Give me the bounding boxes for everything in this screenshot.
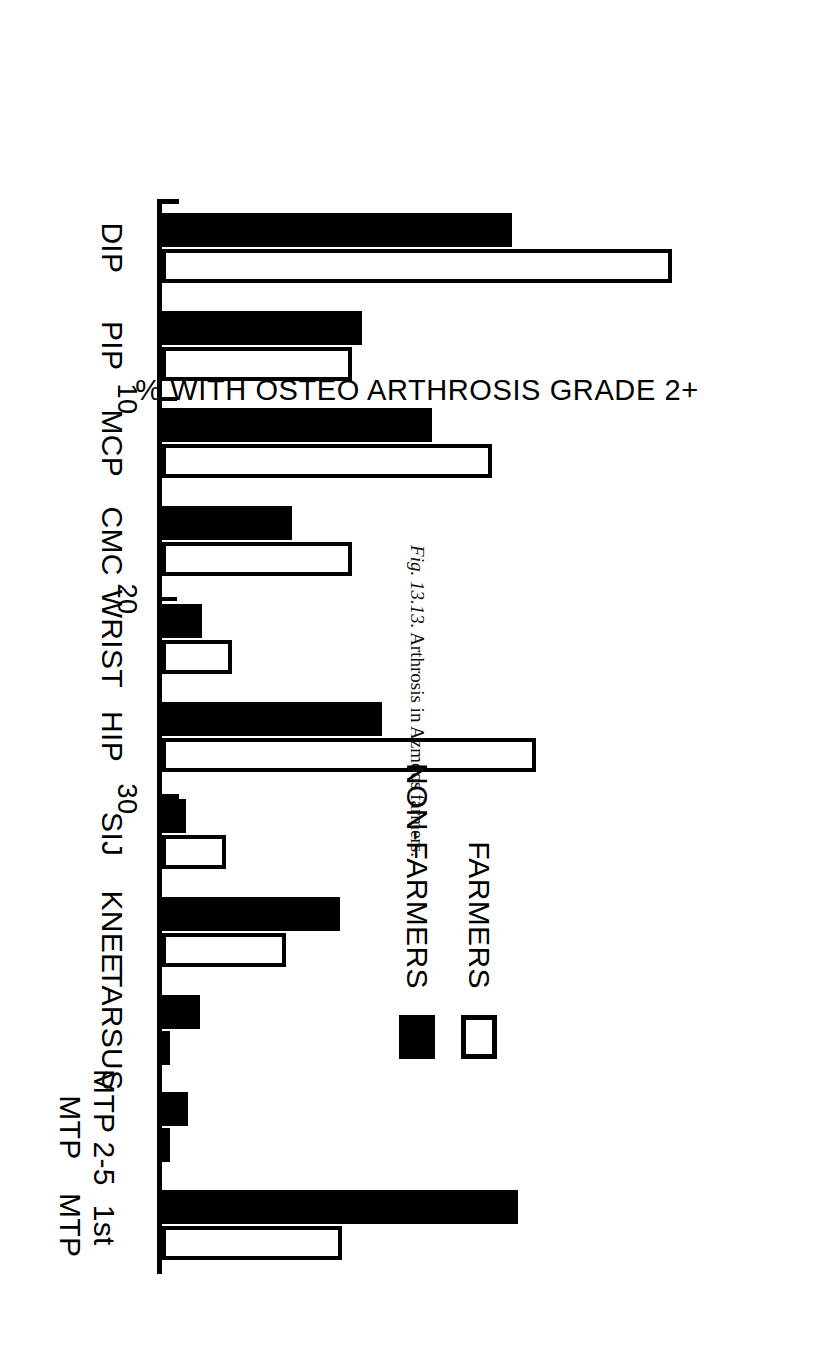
bar-non-farmers: [162, 1092, 188, 1126]
bar-group: [162, 408, 762, 478]
bar-non-farmers: [162, 604, 202, 638]
bar-farmers: [162, 542, 352, 576]
axis-origin-cap: [157, 199, 179, 204]
bar-group: [162, 506, 762, 576]
bar-farmers: [162, 835, 226, 869]
bar-group: [162, 1190, 762, 1260]
category-label: DIP: [95, 222, 129, 273]
legend-entry-farmers: FARMERS: [461, 739, 497, 1059]
bar-group: [162, 1092, 762, 1162]
bar-non-farmers: [162, 897, 340, 931]
category-label: PIP: [95, 321, 129, 370]
caption-text: Arthrosis in Azmoos farmers.: [407, 632, 428, 857]
category-label: KNEE: [95, 891, 129, 974]
bar-farmers: [162, 1226, 342, 1260]
chart-legend: FARMERS NON-FARMERS: [373, 739, 497, 1059]
category-label: SIJ: [95, 812, 129, 856]
bar-non-farmers: [162, 799, 186, 833]
bar-farmers: [162, 1031, 170, 1065]
category-label: MTP 2-5MTP: [53, 1069, 121, 1186]
bar-farmers: [162, 1128, 170, 1162]
bar-non-farmers: [162, 213, 512, 247]
category-label: HIP: [95, 711, 129, 762]
figure-number: Fig. 13.13.: [407, 545, 428, 628]
bar-non-farmers: [162, 506, 292, 540]
figure-caption: Fig. 13.13. Arthrosis in Azmoos farmers.: [406, 284, 428, 1118]
plot-area: 102030 DIPPIPMCPCMCWRISTHIPSIJKNEETARSUS…: [157, 199, 757, 1274]
bar-farmers: [162, 444, 492, 478]
bar-non-farmers: [162, 995, 200, 1029]
bar-group: [162, 311, 762, 381]
axis-tick: [157, 397, 177, 401]
axis-tick-label: 30: [111, 783, 142, 814]
legend-label-farmers: FARMERS: [462, 739, 496, 989]
bar-non-farmers: [162, 408, 432, 442]
open-square-icon: [461, 1015, 497, 1059]
category-label: WRIST: [95, 590, 129, 688]
bar-farmers: [162, 640, 232, 674]
axis-tick: [157, 597, 177, 601]
category-label: CMC: [95, 506, 129, 575]
category-label: MCP: [95, 410, 129, 478]
bar-group: [162, 604, 762, 674]
bar-farmers: [162, 347, 352, 381]
bar-farmers: [162, 933, 286, 967]
bar-group: [162, 213, 762, 283]
bar-non-farmers: [162, 311, 362, 345]
bar-non-farmers: [162, 1190, 518, 1224]
bar-non-farmers: [162, 702, 382, 736]
category-label: 1stMTP: [53, 1193, 121, 1257]
bar-farmers: [162, 249, 672, 283]
